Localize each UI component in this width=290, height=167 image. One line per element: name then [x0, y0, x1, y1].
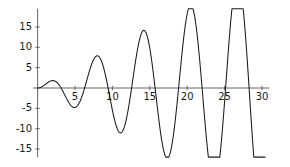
x-axis-tick-labels: 51015202530 [72, 91, 269, 102]
x-tick-label: 20 [181, 91, 194, 102]
plot-area: 51015202530 -15-10-551015 [0, 0, 290, 167]
y-axis-tick-labels: -15-10-551015 [16, 21, 32, 154]
y-tick-label: 10 [19, 41, 32, 52]
y-tick-label: -15 [16, 143, 32, 154]
y-tick-label: 15 [19, 21, 32, 32]
data-series-curve [38, 9, 265, 157]
chart-figure: 51015202530 -15-10-551015 [0, 0, 290, 167]
axes-group [33, 9, 269, 157]
x-tick-label: 5 [72, 91, 78, 102]
x-tick-label: 10 [106, 91, 119, 102]
x-tick-label: 30 [256, 91, 269, 102]
y-tick-label: -5 [22, 102, 32, 113]
x-tick-label: 15 [143, 91, 156, 102]
y-tick-label: 5 [26, 62, 32, 73]
y-tick-label: -10 [16, 123, 32, 134]
